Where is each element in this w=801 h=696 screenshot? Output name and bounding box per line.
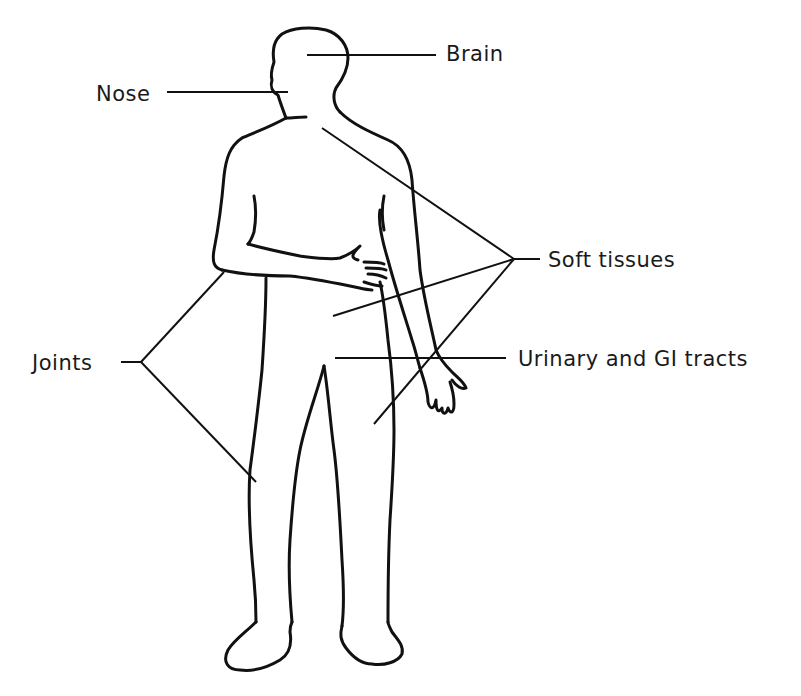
gripping-hand-outline — [364, 262, 386, 286]
right-armpit-outline — [383, 196, 385, 230]
label-nose: Nose — [96, 84, 150, 105]
torso-right-outline — [380, 282, 394, 622]
inner-left-leg-outline — [289, 366, 324, 622]
label-joints: Joints — [32, 353, 92, 374]
right-foot-outline — [341, 622, 403, 665]
torso-left-outline — [249, 278, 266, 622]
left-shoulder-outline — [213, 118, 286, 270]
left-foot-outline — [226, 622, 292, 670]
label-brain: Brain — [446, 44, 504, 65]
joints-leader-elbow — [141, 272, 224, 362]
joints-leader-knee — [141, 362, 256, 482]
label-soft-tissues: Soft tissues — [548, 250, 675, 271]
label-urinary-gi-tracts: Urinary and GI tracts — [518, 349, 748, 370]
body-diagram: Brain Nose Soft tissues Joints Urinary a… — [0, 0, 801, 696]
chin-outline — [286, 117, 306, 118]
head-outline — [271, 28, 348, 118]
inner-right-leg-outline — [324, 366, 344, 626]
left-armpit-outline — [248, 196, 256, 244]
inner-arm-outline — [379, 210, 420, 368]
hanging-hand-outline — [420, 368, 454, 413]
forearm-top-outline — [248, 244, 360, 260]
bent-forearm-outline — [222, 270, 372, 290]
